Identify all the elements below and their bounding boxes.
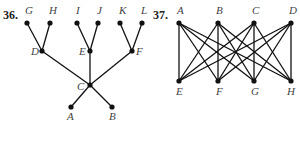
vertex-G	[251, 78, 256, 83]
vertex-label-B: B	[216, 4, 223, 16]
vertex-label-D: D	[30, 45, 39, 57]
vertex-F	[129, 48, 134, 53]
vertex-I	[74, 20, 79, 25]
vertex-label-H: H	[286, 85, 296, 97]
tree-diagram-36: GHIJKLDEFCAB	[24, 4, 147, 122]
vertex-label-H: H	[48, 4, 58, 16]
edge-F-C	[90, 51, 132, 85]
vertex-A	[68, 104, 73, 109]
vertex-C	[87, 82, 92, 87]
exercise-number-37: 37.	[153, 8, 168, 22]
bipartite-graph-37: ABCDEFGH	[175, 4, 297, 97]
vertex-label-G: G	[251, 85, 259, 97]
vertex-label-F: F	[215, 85, 223, 97]
graph-exercises-figure: 36. 37. GHIJKLDEFCAB ABCDEFGH	[0, 0, 300, 165]
vertex-H	[47, 20, 52, 25]
vertex-L	[139, 20, 144, 25]
vertex-C	[251, 20, 256, 25]
vertex-label-E: E	[175, 85, 183, 97]
vertex-G	[24, 20, 29, 25]
vertex-E	[87, 48, 92, 53]
edge-H-D	[42, 23, 50, 51]
vertex-label-D: D	[288, 4, 297, 16]
vertex-D	[39, 48, 44, 53]
edge-C-B	[90, 85, 112, 107]
vertex-F	[215, 78, 220, 83]
vertex-label-C: C	[77, 80, 85, 92]
vertex-H	[288, 78, 293, 83]
vertex-B	[109, 104, 114, 109]
vertex-label-C: C	[252, 4, 260, 16]
edge-J-E	[90, 23, 98, 51]
vertex-A	[176, 20, 181, 25]
vertex-B	[215, 20, 220, 25]
vertex-label-K: K	[118, 4, 127, 16]
edge-K-F	[120, 23, 132, 51]
vertex-label-G: G	[25, 4, 33, 16]
vertex-E	[176, 78, 181, 83]
vertex-J	[95, 20, 100, 25]
vertex-label-E: E	[78, 45, 86, 57]
vertex-label-B: B	[109, 110, 116, 122]
vertex-label-L: L	[140, 4, 147, 16]
vertex-D	[288, 20, 293, 25]
vertex-label-I: I	[75, 4, 81, 16]
vertex-label-A: A	[66, 110, 74, 122]
exercise-number-36: 36.	[3, 8, 18, 22]
vertex-label-F: F	[135, 45, 143, 57]
vertex-label-A: A	[176, 4, 184, 16]
vertex-label-J: J	[97, 4, 103, 16]
vertex-K	[117, 20, 122, 25]
